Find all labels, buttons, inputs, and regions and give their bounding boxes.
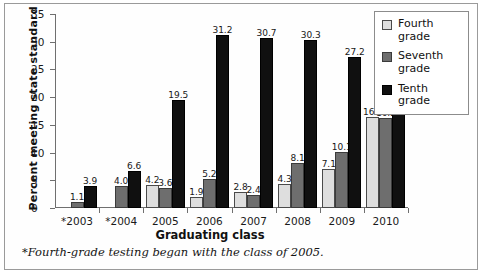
- x-tick-label: 2007: [240, 215, 267, 227]
- bar-group: 2.82.430.7: [232, 14, 276, 208]
- bar-value-label: 4.3: [278, 175, 292, 184]
- y-tick-label: 0: [31, 202, 43, 214]
- plot-area: 05101520253035 1.13.94.06.64.23.619.51.9…: [55, 14, 408, 208]
- x-tick-label: 2008: [284, 215, 311, 227]
- bar-value-label: 1.9: [189, 188, 203, 197]
- bar-value-label: 8.1: [291, 154, 305, 163]
- y-tick-label: 5: [31, 174, 43, 186]
- bar: 4.0: [115, 186, 128, 208]
- bar: 3.9: [84, 186, 97, 208]
- bar: 30.7: [260, 38, 273, 208]
- bar: 7.1: [322, 169, 335, 208]
- legend-label-tenth-grade: Tenth grade: [398, 83, 460, 108]
- bar: 19.5: [172, 100, 185, 208]
- bar-value-label: 3.6: [158, 179, 172, 188]
- legend-item-tenth-grade: Tenth grade: [382, 83, 460, 108]
- bar-value-label: 6.6: [127, 162, 141, 171]
- x-tick: [276, 208, 277, 213]
- bar-value-label: 4.0: [114, 177, 128, 186]
- legend-label-seventh-grade: Seventh grade: [398, 50, 460, 75]
- y-tick-label: 15: [31, 119, 43, 131]
- legend-swatch-fourth-grade-icon: [382, 20, 392, 30]
- bar: 5.2: [203, 179, 216, 208]
- x-tick-label: 2009: [328, 215, 355, 227]
- bar-value-label: 1.1: [70, 193, 84, 202]
- bar: 2.8: [234, 192, 247, 208]
- y-tick-label: 20: [31, 91, 43, 103]
- bar: 16.4: [366, 117, 379, 208]
- x-tick-label: 2006: [196, 215, 223, 227]
- y-tick-label: 30: [31, 36, 43, 48]
- bar-value-label: 3.9: [83, 177, 97, 186]
- bar: 8.1: [291, 163, 304, 208]
- bar-value-label: 19.5: [168, 91, 188, 100]
- x-tick: [320, 208, 321, 213]
- bar: 1.9: [190, 197, 203, 208]
- x-tick: [187, 208, 188, 213]
- bar: 27.2: [348, 57, 361, 208]
- legend-label-fourth-grade: Fourth grade: [398, 18, 460, 43]
- legend-swatch-tenth-grade-icon: [382, 85, 392, 95]
- bar-group: 4.06.6: [99, 14, 143, 208]
- bar: 17.5: [392, 111, 405, 208]
- bar-value-label: 27.2: [345, 48, 365, 57]
- bar-value-label: 30.7: [257, 29, 277, 38]
- y-tick-label: 35: [31, 8, 43, 20]
- bar-value-label: 30.3: [301, 31, 321, 40]
- x-tick-label: *2003: [61, 215, 93, 227]
- x-axis-title: Graduating class: [0, 228, 420, 242]
- bar: 30.3: [304, 40, 317, 208]
- chart-footnote: *Fourth-grade testing began with the cla…: [22, 245, 324, 259]
- bar: 31.2: [216, 35, 229, 208]
- bar: 2.4: [247, 195, 260, 208]
- legend-swatch-seventh-grade-icon: [382, 52, 392, 62]
- x-tick: [364, 208, 365, 213]
- chart-legend: Fourth grade Seventh grade Tenth grade: [374, 11, 469, 115]
- x-tick: [99, 208, 100, 213]
- bar-group: 1.95.231.2: [187, 14, 231, 208]
- bar: 3.6: [159, 188, 172, 208]
- x-tick: [408, 208, 409, 213]
- bar-group: 4.38.130.3: [276, 14, 320, 208]
- bar-chart-figure: Percent meeting state standard 051015202…: [0, 0, 482, 274]
- x-tick-label: 2005: [152, 215, 179, 227]
- bar-group: 4.23.619.5: [143, 14, 187, 208]
- x-tick-label: 2010: [373, 215, 400, 227]
- bar-group: 1.13.9: [55, 14, 99, 208]
- x-tick-label: *2004: [105, 215, 137, 227]
- y-tick-label: 10: [31, 147, 43, 159]
- x-tick: [143, 208, 144, 213]
- bar: 16.2: [379, 118, 392, 208]
- bar-value-label: 2.4: [246, 186, 260, 195]
- legend-item-fourth-grade: Fourth grade: [382, 18, 460, 43]
- x-tick: [232, 208, 233, 213]
- bar-group: 7.110.127.2: [320, 14, 364, 208]
- bar-value-label: 7.1: [322, 160, 336, 169]
- y-tick-label: 25: [31, 63, 43, 75]
- bar: 10.1: [335, 152, 348, 208]
- legend-item-seventh-grade: Seventh grade: [382, 50, 460, 75]
- bar: 6.6: [128, 171, 141, 208]
- bar: 4.3: [278, 184, 291, 208]
- bar: 1.1: [71, 202, 84, 208]
- bar-value-label: 31.2: [212, 26, 232, 35]
- bar-value-label: 5.2: [202, 170, 216, 179]
- bar: 4.2: [146, 185, 159, 208]
- y-tick: [50, 208, 55, 209]
